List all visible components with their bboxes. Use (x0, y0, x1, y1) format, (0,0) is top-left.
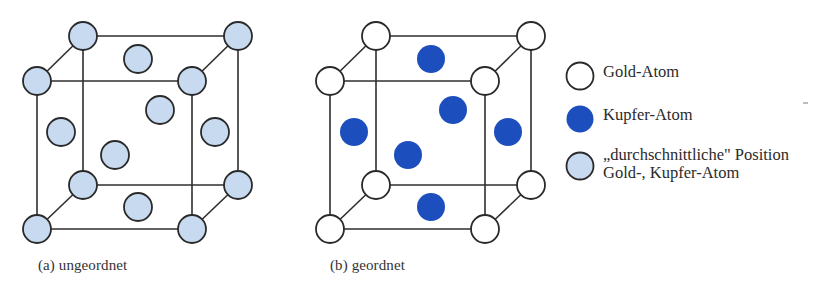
corner-atom-fbr (471, 215, 499, 243)
legend-symbol-average-icon (567, 153, 594, 180)
face-atom-left (340, 118, 368, 146)
corner-atom-fbr (178, 215, 206, 243)
face-atom-left (47, 118, 75, 146)
corner-atom-bbl (69, 171, 97, 199)
corner-atom-ftl (316, 67, 344, 95)
corner-atom-bbr (517, 171, 545, 199)
corner-atom-ftr (178, 67, 206, 95)
face-atom-top (124, 45, 152, 73)
corner-atom-ftr (471, 67, 499, 95)
legend-label-gold: Gold-Atom (603, 63, 679, 81)
clipped-text-line: ​ (0, 286, 826, 293)
corner-atom-ftl (23, 67, 51, 95)
corner-atom-btr (224, 22, 252, 50)
face-atom-top (417, 45, 445, 73)
face-atom-back (439, 96, 467, 124)
face-atom-bottom (124, 193, 152, 221)
corner-atom-fbl (23, 215, 51, 243)
legend-label-average-line1: „durchschnittliche" Position (603, 146, 789, 164)
face-atom-back (146, 96, 174, 124)
corner-atom-fbl (316, 215, 344, 243)
face-atom-right (201, 118, 229, 146)
corner-atom-btl (69, 22, 97, 50)
stray-mark (803, 102, 808, 104)
unit-cell-disordered (23, 22, 252, 243)
face-atom-right (494, 118, 522, 146)
legend-label-copper: Kupfer-Atom (603, 106, 692, 124)
legend-symbol-gold-icon (567, 63, 594, 90)
legend-symbol-copper-icon (567, 106, 594, 133)
face-atom-front (394, 141, 422, 169)
corner-atom-btl (362, 22, 390, 50)
face-atom-bottom (417, 193, 445, 221)
legend-label-average-line2: Gold-, Kupfer-Atom (603, 164, 739, 182)
corner-atom-btr (517, 22, 545, 50)
caption-ordered: (b) geordnet (330, 257, 405, 274)
face-atom-front (101, 141, 129, 169)
corner-atom-bbl (362, 171, 390, 199)
legend-symbols (567, 63, 594, 180)
corner-atom-bbr (224, 171, 252, 199)
caption-disordered: (a) ungeordnet (38, 257, 127, 274)
unit-cell-ordered (316, 22, 545, 243)
